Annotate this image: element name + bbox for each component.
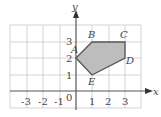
x-tick-3: 3 [122, 96, 128, 107]
vertex-label-B: B [87, 29, 95, 40]
x-tick-neg1: -1 [54, 96, 64, 107]
pentagon-ABCDE [76, 42, 125, 75]
x-axis-label: x [153, 86, 159, 97]
vertex-label-E: E [87, 76, 96, 87]
y-axis-label: y [71, 1, 78, 12]
x-tick-neg2: -2 [38, 96, 48, 107]
vertex-label-C: C [120, 29, 128, 40]
x-tick-neg3: -3 [21, 96, 31, 107]
x-tick-2: 2 [105, 96, 111, 107]
y-tick-1: 1 [66, 70, 72, 81]
vertex-label-A: A [70, 44, 78, 55]
origin-label: 0 [66, 92, 72, 103]
x-axis-arrow-icon [145, 88, 153, 94]
vertex-label-D: D [125, 55, 134, 66]
x-tick-1: 1 [89, 96, 95, 107]
coordinate-plane: x y 0 -3 -2 -1 1 2 3 1 2 3 A B C D E [0, 0, 161, 117]
